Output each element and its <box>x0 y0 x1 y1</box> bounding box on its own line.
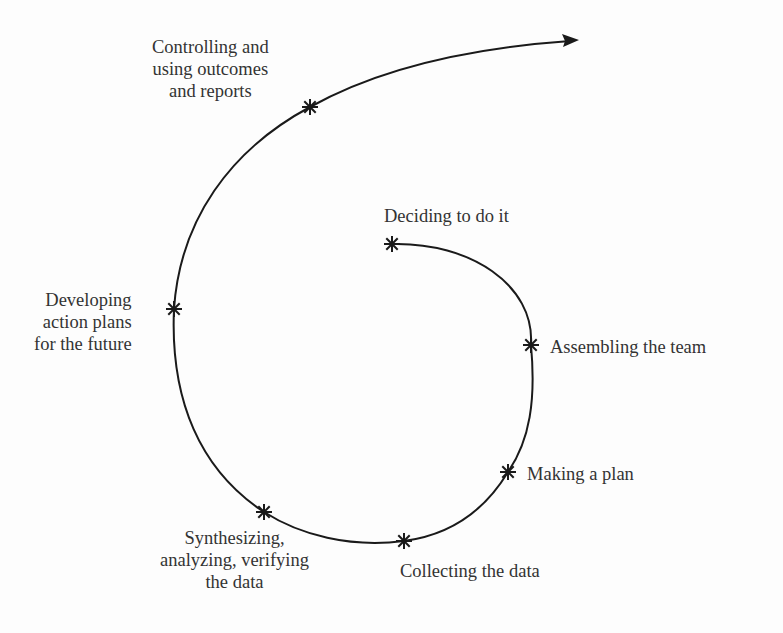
asterisk-marker-icon <box>166 301 182 317</box>
step-label-deciding: Deciding to do it <box>384 205 509 227</box>
step-label-line: Developing <box>34 289 132 311</box>
asterisk-marker-icon <box>523 337 539 353</box>
step-label-assembling: Assembling the team <box>550 336 706 358</box>
asterisk-marker-icon <box>396 533 412 549</box>
step-label-controlling: Controlling andusing outcomesand reports <box>152 36 269 102</box>
asterisk-marker-icon <box>384 236 400 252</box>
asterisk-marker-icon <box>256 504 272 520</box>
step-label-line: Controlling and <box>152 36 269 58</box>
step-label-line: action plans <box>34 311 132 333</box>
step-label-making-plan: Making a plan <box>527 463 634 485</box>
step-label-line: and reports <box>152 80 269 102</box>
asterisk-marker-icon <box>302 99 318 115</box>
step-label-developing: Developingaction plansfor the future <box>34 289 132 355</box>
step-label-synthesizing: Synthesizing,analyzing, verifyingthe dat… <box>160 527 309 593</box>
step-label-line: Synthesizing, <box>160 527 309 549</box>
step-label-collecting: Collecting the data <box>400 560 540 582</box>
step-label-line: Making a plan <box>527 463 634 485</box>
step-label-line: using outcomes <box>152 58 269 80</box>
asterisk-marker-icon <box>500 464 516 480</box>
step-label-line: for the future <box>34 333 132 355</box>
step-markers <box>166 99 539 549</box>
step-label-line: Deciding to do it <box>384 205 509 227</box>
spiral-path <box>174 41 570 543</box>
step-label-line: the data <box>160 571 309 593</box>
step-label-line: Collecting the data <box>400 560 540 582</box>
step-label-line: analyzing, verifying <box>160 549 309 571</box>
step-label-line: Assembling the team <box>550 336 706 358</box>
